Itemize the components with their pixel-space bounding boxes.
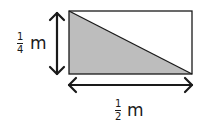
width-numerator: 1 [115, 99, 121, 109]
width-denominator: 2 [115, 112, 121, 122]
width-arrow-icon [69, 78, 192, 92]
width-fraction: 1 2 [115, 99, 121, 122]
height-denominator: 4 [17, 45, 23, 55]
height-unit: m [30, 35, 47, 52]
diagram-canvas [0, 0, 203, 128]
width-unit: m [127, 102, 144, 119]
height-numerator: 1 [17, 32, 23, 42]
height-arrow-icon [50, 13, 64, 74]
height-fraction: 1 4 [17, 32, 23, 55]
